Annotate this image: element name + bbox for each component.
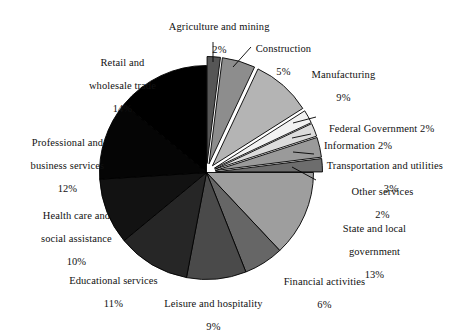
label-financial-text: Financial activities [284, 276, 366, 287]
label-state-local-line2: government [349, 246, 400, 257]
label-leisure-value: 9% [206, 321, 220, 332]
label-state-local-line1: State and local [343, 223, 406, 234]
label-healthcare-line1: Health care and [43, 210, 110, 221]
label-transportation-text: Transportation and utilities [327, 160, 443, 171]
label-manufacturing-text: Manufacturing [312, 69, 376, 80]
label-retail-line1: Retail and [101, 57, 145, 68]
label-professional-line2: business services [31, 160, 105, 171]
label-agriculture-value: 2% [212, 44, 226, 55]
label-retail-and-wholesale-trade: Retail and wholesale trade 14% [58, 45, 176, 126]
label-healthcare-line2: social assistance [41, 233, 112, 244]
label-healthcare-value: 10% [67, 256, 87, 267]
label-retail-value: 14% [113, 103, 133, 114]
label-educational-value: 11% [104, 298, 123, 309]
label-leisure-text: Leisure and hospitality [164, 298, 263, 309]
label-financial-activities: Financial activities 6% [258, 264, 380, 322]
label-manufacturing-value: 9% [336, 92, 350, 103]
label-professional-line1: Professional and [32, 137, 103, 148]
label-financial-value: 6% [317, 299, 331, 310]
label-agriculture-text: Agriculture and mining [169, 21, 270, 32]
label-professional-and-business-services: Professional and business services 12% [3, 125, 121, 206]
label-other-services-text: Other services [352, 186, 414, 197]
label-retail-line2: wholesale trade [89, 80, 156, 91]
label-construction-text: Construction [256, 43, 311, 54]
label-health-care-and-social-assistance: Health care and social assistance 10% [12, 198, 130, 279]
label-manufacturing: Manufacturing 9% [287, 57, 389, 115]
label-professional-value: 12% [58, 183, 78, 194]
